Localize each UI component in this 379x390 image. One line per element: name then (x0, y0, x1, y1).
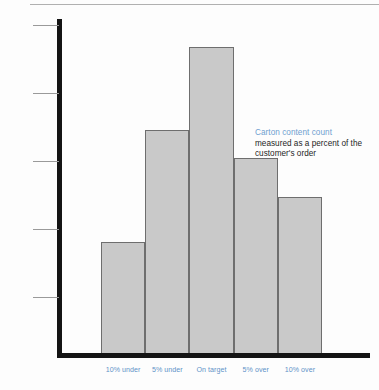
bar-on-target (189, 47, 233, 353)
y-axis-tick (33, 93, 59, 94)
x-axis-label: 10% under (101, 366, 145, 374)
chart-annotation: Carton content count measured as a perce… (255, 128, 379, 159)
x-axis-label: 10% over (278, 366, 322, 374)
x-axis-labels: 10% under5% underOn target5% over10% ove… (101, 366, 322, 374)
bar-10-over (278, 197, 322, 353)
annotation-body-line-2: customer's order (255, 149, 379, 159)
x-axis-label: 5% under (145, 366, 189, 374)
bar-series (101, 19, 322, 353)
top-divider-rule (30, 4, 379, 5)
bar-chart: Carton content count measured as a perce… (0, 0, 379, 390)
plot-area (62, 19, 370, 353)
annotation-body-line-1: measured as a percent of the (255, 139, 379, 149)
y-axis-tick (33, 297, 59, 298)
y-axis-tick (33, 229, 59, 230)
annotation-title: Carton content count (255, 128, 379, 138)
y-axis-tick (33, 25, 59, 26)
x-axis-line (57, 353, 370, 358)
bar-5-over (234, 158, 278, 353)
y-axis-tick (33, 161, 59, 162)
bar-10-under (101, 242, 145, 353)
bar-5-under (145, 130, 189, 353)
x-axis-label: 5% over (234, 366, 278, 374)
x-axis-label: On target (189, 366, 233, 374)
